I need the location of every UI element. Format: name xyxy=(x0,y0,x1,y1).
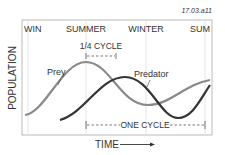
y-axis-label: POPULATION xyxy=(7,46,18,110)
time-arrow-icon xyxy=(120,143,155,147)
predator-prey-diagram: 17.03.a11 WIN SUMMER WINTER SUM 1/4 CYCL… xyxy=(0,0,225,155)
figure-id: 17.03.a11 xyxy=(181,7,212,14)
quarter-cycle-bracket xyxy=(86,53,116,59)
season-label-sum: SUM xyxy=(190,24,210,34)
x-axis-label: TIME xyxy=(95,139,119,150)
predator-label: Predator xyxy=(134,69,169,79)
season-label-summer: SUMMER xyxy=(66,24,106,34)
season-label-winter: WINTER xyxy=(128,24,164,34)
one-cycle-label: ONE CYCLE xyxy=(120,120,169,130)
predator-curve xyxy=(60,77,210,120)
prey-label: Prey xyxy=(47,67,66,77)
quarter-cycle-label: 1/4 CYCLE xyxy=(80,41,123,51)
season-label-win: WIN xyxy=(24,24,42,34)
predator-leader-line xyxy=(147,80,150,87)
